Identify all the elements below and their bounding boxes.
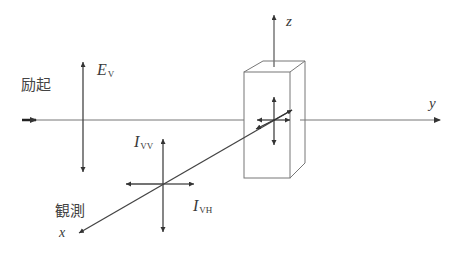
excitation-label: 励起 — [21, 78, 51, 93]
y-axis-label: y — [429, 96, 436, 111]
z-axis-label: z — [286, 14, 292, 29]
x-axis-label: x — [59, 226, 65, 240]
observation-label: 観測 — [55, 204, 85, 219]
ivv-label: IVV — [134, 134, 153, 151]
ivh-label: IVH — [193, 198, 212, 215]
ev-label: EV — [97, 62, 114, 79]
